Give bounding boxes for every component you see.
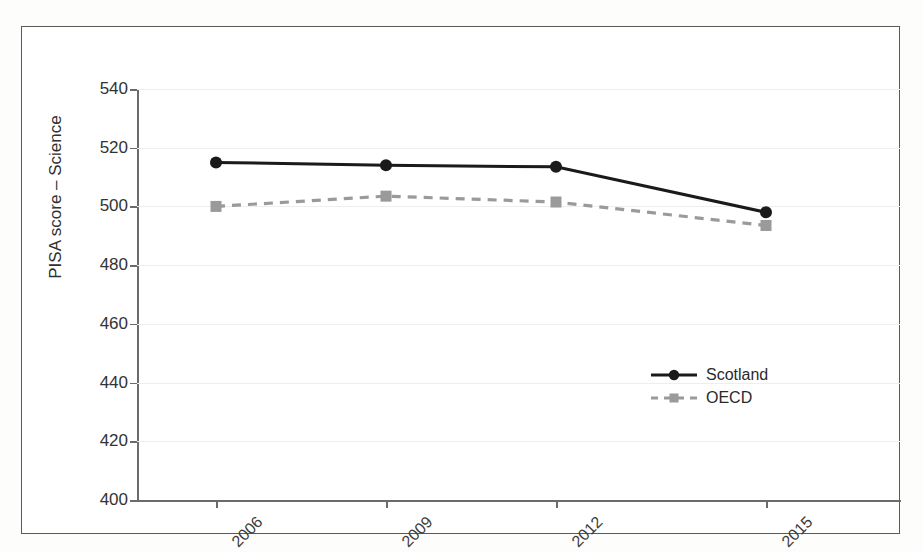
chart-page: PISA score – Science 540 520 500 480 460: [0, 0, 923, 552]
legend-swatch-scotland: [650, 367, 698, 383]
y-tick-mark-420: [130, 441, 137, 443]
chart-legend: Scotland OECD: [650, 363, 820, 409]
x-tick-mark-2015: [766, 500, 768, 508]
data-point-oecd-2015: [761, 220, 772, 231]
y-tick-label-440: 440: [82, 374, 128, 391]
data-point-oecd-2006: [211, 201, 222, 212]
data-point-scotland-2012: [550, 161, 562, 173]
x-tick-mark-2009: [386, 500, 388, 508]
figure-frame: PISA score – Science 540 520 500 480 460: [21, 26, 900, 534]
legend-label-oecd: OECD: [706, 390, 752, 406]
x-tick-label-2006: 2006: [228, 513, 266, 551]
y-axis-title: PISA score – Science: [46, 77, 66, 317]
y-tick-label-460: 460: [82, 315, 128, 332]
y-tick-label-520: 520: [82, 139, 128, 156]
legend-entry-oecd: OECD: [650, 386, 820, 409]
plot-area: [137, 89, 900, 500]
x-tick-label-2009: 2009: [398, 513, 436, 551]
chart-series-svg: [137, 89, 900, 500]
legend-label-scotland: Scotland: [706, 367, 768, 383]
y-tick-mark-520: [130, 148, 137, 150]
data-point-oecd-2012: [551, 197, 562, 208]
y-tick-label-540: 540: [82, 80, 128, 97]
y-tick-label-400: 400: [82, 491, 128, 508]
series-scotland: [210, 156, 772, 218]
x-tick-label-2015: 2015: [778, 513, 816, 551]
legend-swatch-oecd: [650, 390, 698, 406]
series-line-scotland: [216, 162, 766, 212]
data-point-scotland-2009: [380, 159, 392, 171]
data-point-scotland-2015: [760, 206, 772, 218]
x-tick-mark-2006: [216, 500, 218, 508]
y-tick-mark-400: [130, 500, 137, 502]
y-tick-mark-540: [130, 89, 137, 91]
y-tick-mark-460: [130, 324, 137, 326]
y-tick-label-480: 480: [82, 256, 128, 273]
series-line-oecd: [216, 196, 766, 225]
y-tick-label-500: 500: [82, 197, 128, 214]
data-point-scotland-2006: [210, 156, 222, 168]
y-tick-mark-500: [130, 206, 137, 208]
y-tick-mark-440: [130, 383, 137, 385]
y-tick-mark-480: [130, 265, 137, 267]
y-tick-label-420: 420: [82, 432, 128, 449]
data-point-oecd-2009: [381, 191, 392, 202]
x-axis-line: [137, 500, 901, 502]
legend-entry-scotland: Scotland: [650, 363, 820, 386]
x-tick-mark-2012: [556, 500, 558, 508]
x-tick-label-2012: 2012: [568, 513, 606, 551]
